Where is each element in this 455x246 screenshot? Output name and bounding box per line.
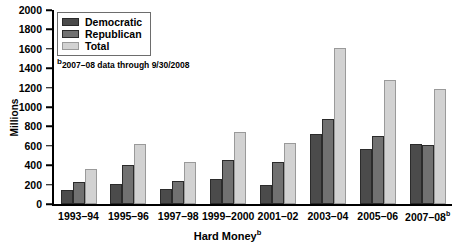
legend-swatch-republican	[62, 30, 79, 38]
legend-item-total: Total	[62, 40, 142, 52]
y-axis-tick-label: 200	[24, 179, 42, 190]
bar-republican	[172, 181, 184, 204]
bar-group	[153, 10, 203, 204]
bar-total	[334, 48, 346, 204]
y-axis-tick-label: 800	[24, 121, 42, 132]
bar-democratic	[360, 149, 372, 204]
legend-item-republican: Republican	[62, 28, 142, 40]
bar-republican	[73, 182, 85, 204]
x-axis-tick-label: 1995–96	[108, 210, 149, 222]
x-axis-tick-label: 2003–04	[307, 210, 348, 222]
y-axis-tick-label: 2000	[19, 5, 42, 16]
bar-total	[434, 89, 446, 204]
y-axis-tick-label: 600	[24, 141, 42, 152]
bar-democratic	[61, 190, 73, 204]
y-axis-tick-label: 1200	[19, 82, 42, 93]
bar-republican	[322, 119, 334, 204]
x-axis-tick-label: 2007–08b	[405, 210, 450, 223]
legend-item-democratic: Democratic	[62, 16, 142, 28]
legend-swatch-total	[62, 42, 79, 50]
bar-total	[85, 169, 97, 204]
x-axis-tick-label: 1993–94	[58, 210, 99, 222]
bar-group	[303, 10, 353, 204]
footnote-text: 2007–08 data through 9/30/2008	[62, 60, 190, 70]
bar-total	[284, 143, 296, 204]
bar-republican	[272, 162, 284, 204]
bar-democratic	[210, 179, 222, 204]
x-axis-title-superscript: b	[257, 228, 262, 237]
y-axis-tick-label: 0	[36, 199, 42, 210]
bar-total	[384, 80, 396, 204]
bar-democratic	[160, 189, 172, 204]
x-axis-tick-label: 2005–06	[357, 210, 398, 222]
bar-republican	[422, 145, 434, 204]
bar-group	[353, 10, 403, 204]
bar-democratic	[310, 134, 322, 204]
bar-group	[203, 10, 253, 204]
x-axis-tick-label: 2001–02	[258, 210, 299, 222]
y-axis-tick-label: 1800	[19, 24, 42, 35]
legend-label-democratic: Democratic	[85, 17, 142, 28]
legend: Democratic Republican Total	[57, 12, 151, 56]
y-axis-tick-label: 1600	[19, 44, 42, 55]
bar-total	[134, 144, 146, 204]
bar-total	[184, 162, 196, 204]
x-axis-title: Hard Moneyb	[0, 228, 455, 242]
bar-democratic	[260, 185, 272, 204]
legend-swatch-democratic	[62, 18, 79, 26]
bar-group	[403, 10, 453, 204]
y-axis-tick-label: 1400	[19, 63, 42, 74]
x-axis-tick-labels: 1993–941995–961997–981999–20002001–02200…	[54, 207, 453, 229]
bar-group	[253, 10, 303, 204]
footnote: b2007–08 data through 9/30/2008	[57, 57, 189, 70]
x-axis-tick-label: 1997–98	[158, 210, 199, 222]
bar-republican	[372, 136, 384, 204]
y-axis-tick-labels: 2000180016001400120010008006004002000	[0, 0, 52, 246]
bar-democratic	[410, 144, 422, 204]
x-axis-tick-label: 1999–2000	[202, 210, 255, 222]
bar-republican	[222, 160, 234, 204]
bar-democratic	[110, 184, 122, 204]
x-axis-title-text: Hard Money	[194, 230, 257, 242]
bar-chart: Millions 2000180016001400120010008006004…	[0, 0, 455, 246]
x-axis-tick-label-superscript: b	[446, 210, 450, 217]
y-axis-tick-label: 1000	[19, 102, 42, 113]
bar-total	[234, 132, 246, 204]
bar-republican	[122, 165, 134, 204]
legend-label-republican: Republican	[85, 29, 142, 40]
y-axis-tick-label: 400	[24, 160, 42, 171]
legend-label-total: Total	[85, 41, 109, 52]
